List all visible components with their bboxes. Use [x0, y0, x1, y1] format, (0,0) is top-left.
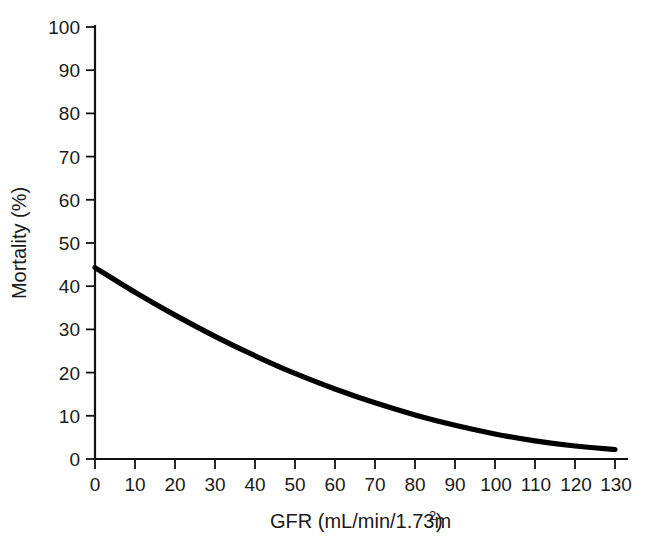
y-axis-title: Mortality (%) — [8, 187, 30, 299]
y-tick-label: 80 — [59, 103, 80, 124]
y-tick-label: 100 — [48, 17, 80, 38]
x-tick-label: 90 — [444, 474, 465, 495]
y-tick-label: 20 — [59, 363, 80, 384]
y-tick-label: 10 — [59, 406, 80, 427]
x-tick-label: 30 — [204, 474, 225, 495]
y-tick-label: 30 — [59, 319, 80, 340]
x-tick-label: 100 — [480, 474, 512, 495]
x-tick-label: 20 — [164, 474, 185, 495]
x-axis-title: GFR (mL/min/1.73m 2 ) — [270, 508, 451, 532]
x-tick-label: 120 — [560, 474, 592, 495]
y-tick-label: 0 — [69, 449, 80, 470]
mortality-gfr-chart: 0 10 20 30 40 50 60 70 80 90 100 0 10 20… — [0, 0, 649, 547]
x-tick-label: 110 — [521, 474, 551, 495]
x-axis-title-base: GFR (mL/min/1.73m — [270, 510, 451, 532]
y-tick-label: 60 — [59, 190, 80, 211]
x-tick-label: 130 — [600, 474, 632, 495]
x-tick-label: 70 — [364, 474, 385, 495]
x-tick-label: 50 — [284, 474, 305, 495]
x-tick-label: 80 — [404, 474, 425, 495]
x-tick-label: 10 — [124, 474, 145, 495]
y-tick-label: 90 — [59, 60, 80, 81]
x-tick-label: 0 — [90, 474, 101, 495]
x-tick-label: 60 — [324, 474, 345, 495]
chart-background — [0, 0, 649, 547]
y-tick-label: 40 — [59, 276, 80, 297]
x-axis-title-tail: ) — [436, 510, 443, 532]
x-tick-label: 40 — [244, 474, 265, 495]
y-tick-label: 70 — [59, 147, 80, 168]
y-tick-label: 50 — [59, 233, 80, 254]
